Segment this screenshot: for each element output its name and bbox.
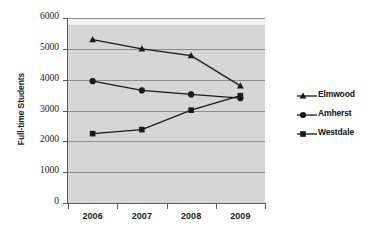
legend-item-amherst[interactable]: Amherst — [296, 103, 368, 122]
series-line — [93, 40, 241, 86]
series-line — [93, 96, 241, 134]
line-chart: Full-time Students 010002000300040005000… — [0, 0, 368, 252]
x-tick-label: 2006 — [70, 211, 116, 221]
data-point-square — [188, 107, 194, 113]
series-amherst — [90, 78, 244, 101]
data-point-triangle — [237, 82, 244, 88]
data-point-square — [238, 93, 244, 99]
series-westdale — [90, 93, 243, 137]
circle-marker-icon — [296, 107, 318, 119]
y-tick-label: 5000 — [19, 42, 59, 52]
y-tick-label: 2000 — [19, 134, 59, 144]
y-tick-label: 1000 — [19, 165, 59, 175]
x-tick-label: 2008 — [168, 211, 214, 221]
legend-label: Amherst — [318, 108, 351, 118]
x-tick-label: 2007 — [119, 211, 165, 221]
square-marker-icon — [296, 126, 318, 138]
triangle-marker-icon — [296, 88, 318, 100]
y-tick-label: 3000 — [19, 104, 59, 114]
y-tick-label: 4000 — [19, 73, 59, 83]
data-point-triangle — [89, 36, 96, 42]
data-point-square — [90, 131, 96, 137]
series-elmwood — [89, 36, 244, 88]
x-tick-mark — [216, 204, 217, 209]
x-tick-mark — [117, 204, 118, 209]
x-tick-mark — [265, 204, 266, 209]
x-tick-mark — [167, 204, 168, 209]
y-tick-label: 0 — [19, 196, 59, 206]
legend-label: Elmwood — [318, 89, 355, 99]
x-tick-mark — [68, 204, 69, 209]
data-point-circle — [90, 78, 96, 84]
x-tick-label: 2009 — [217, 211, 263, 221]
legend: ElmwoodAmherstWestdale — [296, 84, 368, 141]
data-point-circle — [139, 87, 145, 93]
series-line — [93, 81, 241, 98]
series-plot — [68, 18, 265, 203]
data-point-square — [139, 127, 145, 133]
legend-item-elmwood[interactable]: Elmwood — [296, 84, 368, 103]
y-tick-label: 6000 — [19, 11, 59, 21]
data-point-circle — [188, 91, 194, 97]
legend-label: Westdale — [318, 127, 354, 137]
legend-item-westdale[interactable]: Westdale — [296, 122, 368, 141]
